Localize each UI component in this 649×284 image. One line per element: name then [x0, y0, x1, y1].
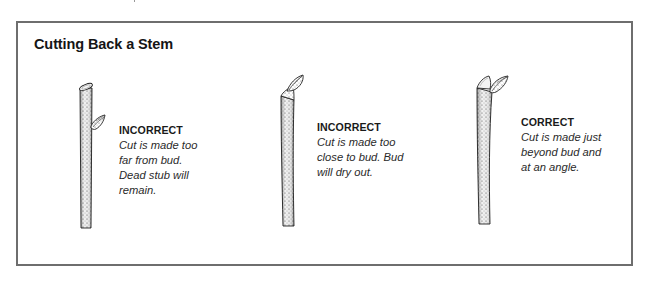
caption-panel-3: CORRECT Cut is made just beyond bud and … — [521, 115, 621, 175]
stem-cut-far-from-bud-icon — [70, 78, 115, 233]
verdict-label: CORRECT — [521, 115, 621, 130]
verdict-label: INCORRECT — [119, 123, 209, 138]
verdict-description: Cut is made just beyond bud and at an an… — [521, 130, 621, 175]
verdict-description: Cut is made too far from bud. Dead stub … — [119, 138, 209, 198]
verdict-label: INCORRECT — [317, 120, 417, 135]
caption-panel-2: INCORRECT Cut is made too close to bud. … — [317, 120, 417, 180]
stray-mark — [134, 0, 135, 2]
stem-cut-correct-angle-icon — [469, 72, 519, 230]
caption-panel-1: INCORRECT Cut is made too far from bud. … — [119, 123, 209, 198]
stem-cut-close-to-bud-icon — [272, 72, 317, 230]
figure-title: Cutting Back a Stem — [34, 36, 173, 52]
verdict-description: Cut is made too close to bud. Bud will d… — [317, 135, 417, 180]
